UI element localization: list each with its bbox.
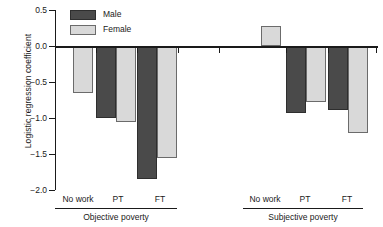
cat-label-subjective-pt: PT (290, 194, 320, 204)
y-tick-mark-4 (49, 154, 55, 155)
bar-objective-pt-male (96, 46, 116, 118)
y-tick-label-3: −1.0 (7, 114, 47, 123)
x-tick-mark-4 (286, 47, 287, 53)
x-tick-mark-0 (96, 47, 97, 53)
bar-objective-no-work-female (73, 46, 93, 93)
bar-subjective-pt-male (286, 46, 306, 113)
group-label-subjective: Subjective poverty (243, 212, 363, 222)
x-tick-mark-5 (328, 47, 329, 53)
cat-label-objective-no-work: No work (55, 194, 101, 204)
y-tick-label-1: 0.0 (7, 42, 47, 51)
legend-label-female: Female (103, 25, 131, 34)
y-tick-mark-0 (49, 10, 55, 11)
bar-subjective-ft-male (328, 46, 348, 110)
bar-subjective-pt-female (306, 46, 326, 102)
bar-objective-pt-female (116, 46, 136, 122)
group-label-objective: Objective poverty (55, 212, 177, 222)
bar-objective-ft-female (157, 46, 177, 158)
x-tick-mark-6 (376, 47, 377, 53)
cat-label-objective-pt: PT (103, 194, 133, 204)
bar-subjective-no-work-female (261, 26, 281, 46)
legend-entry-male: Male (70, 8, 131, 21)
bar-objective-ft-male (137, 46, 157, 179)
y-tick-mark-3 (49, 118, 55, 119)
y-tick-label-0: 0.5 (7, 6, 47, 15)
legend-label-male: Male (103, 10, 121, 19)
cat-label-subjective-no-work: No work (242, 194, 288, 204)
legend-entry-female: Female (70, 23, 131, 36)
y-tick-mark-2 (49, 82, 55, 83)
x-tick-mark-3 (219, 47, 220, 53)
y-tick-label-2: −0.5 (7, 78, 47, 87)
group-rule-objective (55, 208, 177, 209)
group-rule-subjective (243, 208, 363, 209)
y-axis-line (55, 10, 56, 190)
logistic-regression-bar-chart: Logistic regression coefficient 0.5 0.0 … (0, 0, 383, 227)
x-tick-mark-1 (137, 47, 138, 53)
legend-swatch-female-icon (70, 25, 96, 35)
y-tick-mark-5 (49, 190, 55, 191)
zero-baseline (55, 46, 378, 48)
y-tick-label-4: −1.5 (7, 150, 47, 159)
legend: Male Female (70, 8, 131, 38)
y-tick-label-5: −2.0 (7, 186, 47, 195)
x-tick-mark-2 (178, 47, 179, 53)
bar-subjective-ft-female (348, 46, 368, 133)
cat-label-subjective-ft: FT (332, 194, 362, 204)
legend-swatch-male-icon (70, 10, 96, 20)
cat-label-objective-ft: FT (145, 194, 175, 204)
